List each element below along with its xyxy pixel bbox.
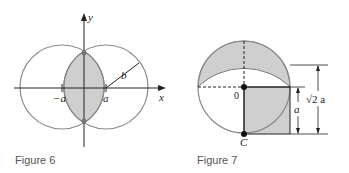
figure-6-caption: Figure 6: [15, 154, 55, 166]
dim-a-arrow-up-icon: [296, 87, 300, 93]
origin-label: 0: [234, 90, 239, 101]
height-sqrt2a-label: √2 a: [306, 93, 325, 105]
intersection-point-top: [82, 51, 87, 56]
intersection-point-bottom: [82, 119, 87, 124]
radius-b-label: b: [121, 69, 127, 81]
pos-a-label: a: [103, 92, 109, 104]
dim-sqrt2a-arrow-down-icon: [316, 128, 320, 134]
neg-a-label: −a: [53, 92, 66, 104]
dim-sqrt2a-arrow-up-icon: [316, 65, 320, 71]
dim-a-arrow-down-icon: [296, 128, 300, 134]
x-axis-label: x: [158, 91, 164, 103]
figure-7-diagram: 0 C a √2 a: [198, 41, 328, 148]
side-a-label: a: [294, 103, 300, 115]
figures-canvas: y x −a a b 0 C: [0, 0, 349, 173]
origin-point: [241, 84, 247, 90]
figure-7-caption: Figure 7: [197, 154, 237, 166]
figure-6-diagram: y x −a a b: [14, 11, 166, 147]
point-c-label: C: [240, 136, 248, 148]
y-axis-arrow-icon: [81, 13, 87, 21]
y-axis-label: y: [87, 11, 93, 23]
